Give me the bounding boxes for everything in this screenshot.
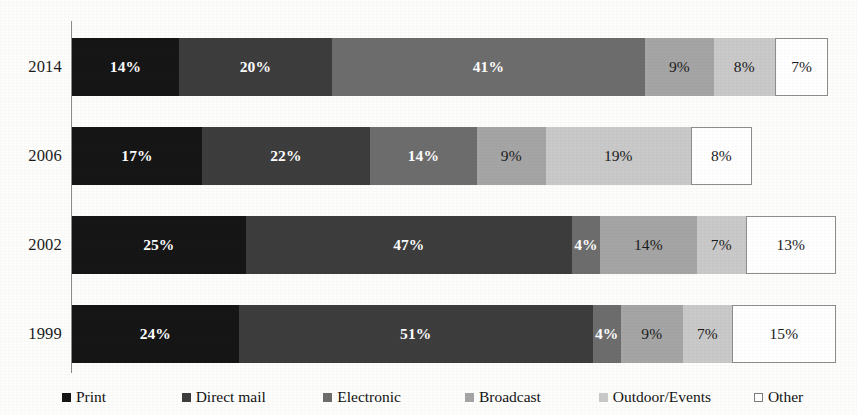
segment-other[interactable]: 13% <box>746 216 836 274</box>
segment-value-label: 51% <box>400 326 431 342</box>
legend-item-print[interactable]: Print <box>62 388 182 406</box>
stacked-bar-1999: 24% 51% 4% 9% 7% 15% <box>72 305 836 363</box>
segment-value-label: 19% <box>604 148 633 164</box>
segment-broadcast[interactable]: 9% <box>645 38 714 96</box>
segment-electronic[interactable]: 41% <box>332 38 645 96</box>
segment-direct-mail[interactable]: 20% <box>179 38 332 96</box>
segment-outdoor-events[interactable]: 19% <box>546 127 691 185</box>
stacked-bar-2006: 17% 22% 14% 9% 19% 8% <box>72 127 836 185</box>
segment-value-label: 8% <box>734 59 755 75</box>
segment-outdoor-events[interactable]: 8% <box>714 38 775 96</box>
legend-label: Electronic <box>337 388 401 406</box>
legend-label: Outdoor/Events <box>613 388 711 406</box>
segment-value-label: 41% <box>473 59 504 75</box>
segment-electronic[interactable]: 14% <box>370 127 477 185</box>
segment-value-label: 24% <box>140 326 171 342</box>
segment-value-label: 7% <box>697 326 718 342</box>
segment-direct-mail[interactable]: 51% <box>239 305 593 363</box>
category-label-1999: 1999 <box>0 305 62 363</box>
segment-direct-mail[interactable]: 47% <box>246 216 572 274</box>
segment-broadcast[interactable]: 14% <box>600 216 697 274</box>
segment-other[interactable]: 15% <box>732 305 836 363</box>
stacked-bar-2002: 25% 47% 4% 14% 7% 13% <box>72 216 836 274</box>
legend-item-outdoor-events[interactable]: Outdoor/Events <box>599 388 754 406</box>
segment-print[interactable]: 14% <box>72 38 179 96</box>
segment-print[interactable]: 25% <box>72 216 246 274</box>
legend-label: Other <box>768 388 803 406</box>
segment-value-label: 14% <box>408 148 439 164</box>
segment-outdoor-events[interactable]: 7% <box>697 216 746 274</box>
segment-electronic[interactable]: 4% <box>593 305 621 363</box>
segment-value-label: 9% <box>669 59 690 75</box>
segment-outdoor-events[interactable]: 7% <box>683 305 732 363</box>
segment-value-label: 4% <box>574 237 597 253</box>
legend-item-electronic[interactable]: Electronic <box>323 388 465 406</box>
segment-broadcast[interactable]: 9% <box>477 127 546 185</box>
bar-row: 2002 25% 47% 4% 14% 7% 13% <box>0 216 857 274</box>
segment-other[interactable]: 8% <box>691 127 752 185</box>
bar-row: 2014 14% 20% 41% 9% 8% 7% <box>0 38 857 96</box>
category-label-2006: 2006 <box>0 127 62 185</box>
legend-swatch-icon <box>599 393 608 402</box>
segment-value-label: 17% <box>121 148 152 164</box>
legend-item-other[interactable]: Other <box>754 388 840 406</box>
segment-other[interactable]: 7% <box>775 38 828 96</box>
category-label-2002: 2002 <box>0 216 62 274</box>
segment-broadcast[interactable]: 9% <box>621 305 683 363</box>
segment-value-label: 7% <box>711 237 732 253</box>
legend-swatch-icon <box>182 393 191 402</box>
segment-value-label: 7% <box>791 59 812 75</box>
legend-label: Broadcast <box>479 388 541 406</box>
stacked-bar-chart: 2014 14% 20% 41% 9% 8% 7% <box>0 0 857 414</box>
legend-label: Direct mail <box>196 388 266 406</box>
segment-value-label: 20% <box>240 59 271 75</box>
segment-value-label: 13% <box>776 237 805 253</box>
segment-value-label: 47% <box>393 237 424 253</box>
bar-row: 2006 17% 22% 14% 9% 19% 8% <box>0 127 857 185</box>
segment-print[interactable]: 24% <box>72 305 239 363</box>
chart-legend: Print Direct mail Electronic Broadcast O… <box>0 378 857 414</box>
bar-row: 1999 24% 51% 4% 9% 7% 15% <box>0 305 857 363</box>
segment-direct-mail[interactable]: 22% <box>202 127 370 185</box>
legend-swatch-icon <box>465 393 474 402</box>
legend-item-broadcast[interactable]: Broadcast <box>465 388 599 406</box>
category-label-2014: 2014 <box>0 38 62 96</box>
segment-value-label: 14% <box>110 59 141 75</box>
segment-value-label: 9% <box>641 326 662 342</box>
segment-value-label: 25% <box>143 237 174 253</box>
segment-value-label: 15% <box>769 326 798 342</box>
plot-area: 2014 14% 20% 41% 9% 8% 7% <box>0 0 857 378</box>
segment-electronic[interactable]: 4% <box>572 216 600 274</box>
segment-value-label: 4% <box>595 326 618 342</box>
segment-value-label: 9% <box>501 148 522 164</box>
segment-value-label: 14% <box>634 237 663 253</box>
legend-swatch-icon <box>754 393 763 402</box>
legend-label: Print <box>76 388 106 406</box>
segment-value-label: 22% <box>270 148 301 164</box>
legend-item-direct-mail[interactable]: Direct mail <box>182 388 324 406</box>
legend-swatch-icon <box>323 393 332 402</box>
segment-print[interactable]: 17% <box>72 127 202 185</box>
stacked-bar-2014: 14% 20% 41% 9% 8% 7% <box>72 38 836 96</box>
segment-value-label: 8% <box>711 148 732 164</box>
legend-swatch-icon <box>62 393 71 402</box>
